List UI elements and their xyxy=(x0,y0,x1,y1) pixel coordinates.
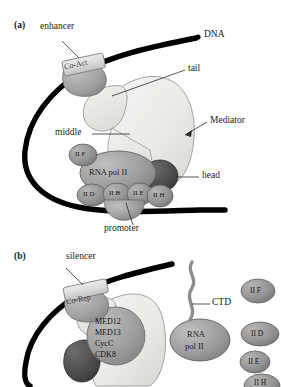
free-factor-label-iid: II D xyxy=(251,330,263,338)
free-factor-label-iif: II F xyxy=(250,287,261,295)
label-tail: tail xyxy=(188,64,200,74)
cdk8-label-med12: MED12 xyxy=(95,318,121,326)
factor-label-iif: II F xyxy=(75,151,85,158)
cdk8-label-cdk8: CDK8 xyxy=(95,351,116,359)
free-factor-label-iie: II E xyxy=(248,358,259,366)
promoter-bulge xyxy=(104,200,144,220)
label-enhancer: enhancer xyxy=(40,22,74,32)
label-silencer: silencer xyxy=(66,252,96,262)
label-promoter: promoter xyxy=(104,224,139,234)
cdk8-label-cycc: CycC xyxy=(95,340,113,348)
factor-label-iie: II E xyxy=(133,190,144,197)
factor-label-iih: II H xyxy=(153,192,164,199)
cdk8-label-med13: MED13 xyxy=(95,329,121,337)
label-mediator: Mediator xyxy=(210,116,245,126)
rna-pol-ii-body-b xyxy=(170,319,230,361)
dna-dot-a xyxy=(195,34,200,39)
rna-pol-ii-label-b-line1: RNA xyxy=(187,330,205,339)
panel-a-id: (a) xyxy=(14,21,25,31)
rna-pol-ii-label-b-line2: pol II xyxy=(185,342,204,351)
rna-pol-ii-label-a: RNA pol II xyxy=(89,168,127,177)
leader-enhancer-a xyxy=(62,41,79,58)
label-middle: middle xyxy=(55,128,81,138)
free-factor-label-iih: II H xyxy=(254,379,266,387)
leader-silencer-b xyxy=(66,268,83,285)
label-head: head xyxy=(202,171,220,181)
label-ctd: CTD xyxy=(212,298,231,308)
panel-b-id: (b) xyxy=(14,252,26,262)
label-dna: DNA xyxy=(204,30,225,40)
ctd-tail xyxy=(189,262,193,320)
panel-b-graphics xyxy=(25,262,280,387)
factor-label-iib: II B xyxy=(109,190,120,197)
factor-label-iid: II D xyxy=(83,191,94,198)
